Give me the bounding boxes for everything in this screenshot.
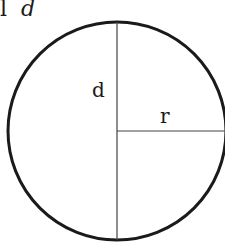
circle-diagram: l d d r [0,0,225,248]
radius-label: r [160,104,170,128]
circle-figure [0,0,225,248]
diameter-label: d [92,78,105,102]
